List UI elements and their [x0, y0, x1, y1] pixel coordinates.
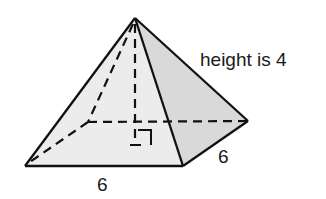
height-label: height is 4	[200, 50, 287, 69]
base-side-edge-label: 6	[218, 147, 229, 166]
pyramid-diagram	[0, 0, 326, 199]
base-front-edge-label: 6	[97, 175, 108, 194]
